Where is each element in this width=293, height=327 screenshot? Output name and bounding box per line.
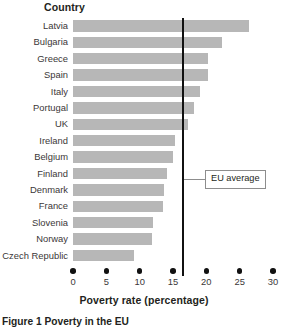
bar	[73, 20, 249, 31]
eu-average-line	[182, 18, 184, 276]
category-label: Finland	[0, 166, 68, 182]
bar	[73, 168, 167, 179]
x-axis: 051015202530	[0, 268, 293, 294]
bar	[73, 119, 188, 130]
x-axis-tick-dot	[104, 268, 110, 274]
bar	[73, 69, 208, 80]
x-axis-tick-label: 15	[158, 276, 188, 287]
category-label: Slovenia	[0, 215, 68, 231]
category-label: Italy	[0, 84, 68, 100]
x-axis-tick-label: 25	[225, 276, 255, 287]
category-label: Portugal	[0, 100, 68, 116]
x-axis-tick-label: 30	[258, 276, 288, 287]
eu-average-leader-line	[184, 179, 205, 180]
bar	[73, 217, 153, 228]
x-axis-tick-dot	[270, 268, 276, 274]
bar-row: Bulgaria	[0, 34, 293, 50]
category-label: Belgium	[0, 149, 68, 165]
bar	[73, 184, 164, 195]
category-label: Denmark	[0, 182, 68, 198]
bar	[73, 37, 222, 48]
bar-row: Portugal	[0, 100, 293, 116]
bar	[73, 250, 134, 261]
x-axis-tick-dot	[204, 268, 210, 274]
bar	[73, 53, 208, 64]
bar	[73, 151, 173, 162]
bar	[73, 233, 152, 244]
category-label: Greece	[0, 51, 68, 67]
bar	[73, 135, 175, 146]
bar-row: Slovenia	[0, 215, 293, 231]
category-label: Czech Republic	[0, 248, 68, 264]
bar	[73, 102, 194, 113]
bar-row: Greece	[0, 51, 293, 67]
x-axis-tick-label: 20	[191, 276, 221, 287]
category-label: UK	[0, 116, 68, 132]
bar-row: Italy	[0, 84, 293, 100]
bar-row: France	[0, 198, 293, 214]
x-axis-tick-dot	[170, 268, 176, 274]
plot-area: LatviaBulgariaGreeceSpainItalyPortugalUK…	[0, 18, 293, 268]
x-axis-tick-label: 10	[125, 276, 155, 287]
x-axis-tick-dot	[70, 268, 76, 274]
bar	[73, 201, 163, 212]
bar-row: Ireland	[0, 133, 293, 149]
bar-row: Norway	[0, 231, 293, 247]
bar-row: Czech Republic	[0, 248, 293, 264]
x-axis-tick-label: 0	[58, 276, 88, 287]
y-axis-header: Country	[44, 1, 85, 13]
bar-row: Belgium	[0, 149, 293, 165]
x-axis-tick-dot	[137, 268, 143, 274]
category-label: Bulgaria	[0, 34, 68, 50]
figure-caption: Figure 1 Poverty in the EU	[2, 316, 129, 327]
category-label: Latvia	[0, 18, 68, 34]
category-label: Spain	[0, 67, 68, 83]
category-label: Ireland	[0, 133, 68, 149]
x-axis-tick-dot	[237, 268, 243, 274]
bar-row: Spain	[0, 67, 293, 83]
category-label: France	[0, 198, 68, 214]
category-label: Norway	[0, 231, 68, 247]
x-axis-tick-label: 5	[91, 276, 121, 287]
eu-average-callout: EU average	[205, 170, 266, 189]
x-axis-title: Poverty rate (percentage)	[0, 294, 288, 306]
bar-row: UK	[0, 116, 293, 132]
bar-row: Latvia	[0, 18, 293, 34]
